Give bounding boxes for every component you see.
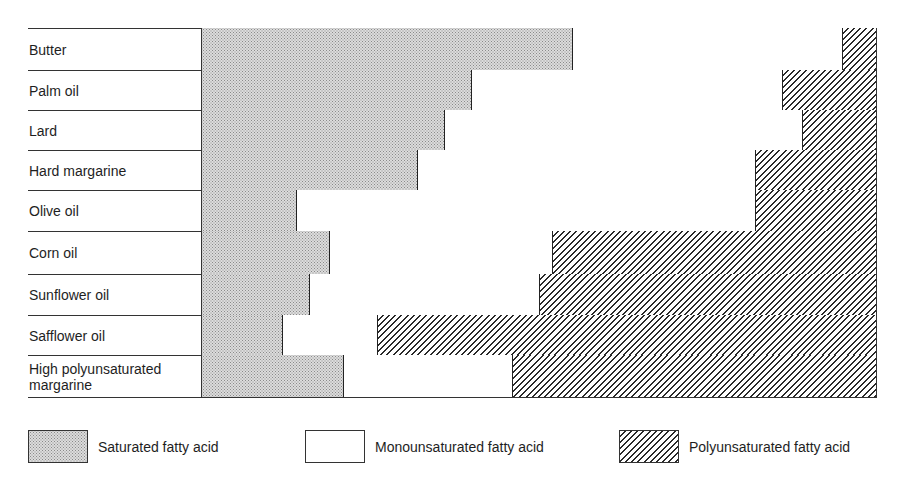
row-label: Lard [29, 111, 199, 150]
stacked-bar [202, 150, 877, 190]
row-label: Hard margarine [29, 151, 199, 190]
polyunsaturated-segment [540, 274, 878, 315]
chart-right-edge [876, 28, 877, 398]
row-label: Butter [29, 29, 199, 70]
polyunsaturated-segment [513, 355, 878, 397]
stacked-bar [202, 315, 877, 355]
legend-item-saturated: Saturated fatty acid [28, 430, 219, 463]
monounsaturated-segment [310, 274, 540, 315]
saturated-segment [202, 110, 445, 150]
monounsaturated-segment [445, 110, 803, 150]
polyunsaturated-segment [843, 28, 877, 70]
saturated-segment [202, 315, 283, 355]
legend-item-polyunsaturated: Polyunsaturated fatty acid [619, 430, 850, 463]
row-divider [28, 397, 877, 398]
monounsaturated-segment [418, 150, 756, 190]
saturated-segment [202, 70, 472, 110]
polyunsaturated-segment [756, 150, 878, 190]
monounsaturated-segment [573, 28, 843, 70]
row-label: High polyunsaturated margarine [29, 356, 199, 397]
row-label: Sunflower oil [29, 275, 199, 315]
monounsaturated-segment [472, 70, 783, 110]
stacked-bar [202, 28, 877, 70]
polyunsaturated-swatch-icon [619, 430, 679, 463]
saturated-segment [202, 355, 344, 397]
row-label: Corn oil [29, 232, 199, 274]
legend-item-monounsaturated: Monounsaturated fatty acid [305, 430, 544, 463]
stacked-bar [202, 190, 877, 231]
monounsaturated-swatch-icon [305, 430, 365, 463]
monounsaturated-segment [330, 231, 553, 274]
legend-label: Saturated fatty acid [98, 439, 219, 455]
saturated-segment [202, 231, 330, 274]
polyunsaturated-segment [378, 315, 878, 355]
monounsaturated-segment [344, 355, 513, 397]
saturated-segment [202, 150, 418, 190]
row-label: Palm oil [29, 71, 199, 110]
polyunsaturated-segment [783, 70, 878, 110]
stacked-bar [202, 110, 877, 150]
chart-left-axis [201, 28, 202, 398]
fatty-acid-stacked-bar-chart: ButterPalm oilLardHard margarineOlive oi… [0, 0, 906, 493]
stacked-bar [202, 70, 877, 110]
row-label: Olive oil [29, 191, 199, 231]
polyunsaturated-segment [553, 231, 877, 274]
saturated-swatch-icon [28, 430, 88, 463]
legend-label: Polyunsaturated fatty acid [689, 439, 850, 455]
legend-label: Monounsaturated fatty acid [375, 439, 544, 455]
saturated-segment [202, 274, 310, 315]
polyunsaturated-segment [756, 190, 878, 231]
row-label: Safflower oil [29, 316, 199, 355]
stacked-bar [202, 231, 877, 274]
polyunsaturated-segment [803, 110, 877, 150]
stacked-bar [202, 355, 877, 397]
monounsaturated-segment [283, 315, 378, 355]
monounsaturated-segment [297, 190, 756, 231]
saturated-segment [202, 190, 297, 231]
saturated-segment [202, 28, 573, 70]
stacked-bar [202, 274, 877, 315]
